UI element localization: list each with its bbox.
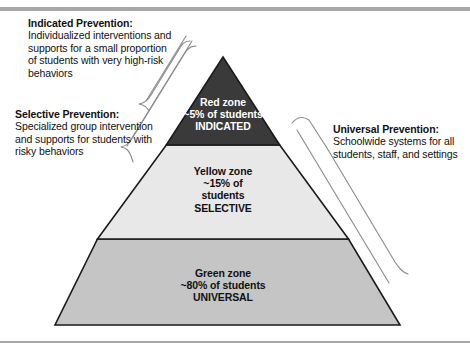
callout-universal-heading: Universal Prevention: <box>333 123 465 135</box>
yellow-zone-line-3: students <box>143 189 303 201</box>
callout-selective-body: Specialized group intervention and suppo… <box>15 120 165 157</box>
callout-indicated-body: Individualized interventions and support… <box>28 29 176 79</box>
red-zone-line-3: INDICATED <box>143 120 303 132</box>
red-zone-label: Red zone ~5% of students INDICATED <box>143 96 303 133</box>
red-zone-line-1: Red zone <box>143 96 303 108</box>
green-zone-label: Green zone ~80% of students UNIVERSAL <box>123 267 323 304</box>
callout-indicated: Indicated Prevention: Individualized int… <box>28 17 176 79</box>
callout-universal-body: Schoolwide systems for all students, sta… <box>333 135 465 160</box>
callout-selective-heading: Selective Prevention: <box>15 108 165 120</box>
callout-universal: Universal Prevention: Schoolwide systems… <box>333 123 465 160</box>
green-zone-line-1: Green zone <box>123 267 323 279</box>
yellow-zone-line-2: ~15% of <box>143 177 303 189</box>
yellow-zone-line-4: SELECTIVE <box>143 202 303 214</box>
callout-selective: Selective Prevention: Specialized group … <box>15 108 165 158</box>
callout-indicated-heading: Indicated Prevention: <box>28 17 176 29</box>
yellow-zone-line-1: Yellow zone <box>143 165 303 177</box>
red-zone-line-2: ~5% of students <box>143 108 303 120</box>
yellow-zone-label: Yellow zone ~15% of students SELECTIVE <box>143 165 303 214</box>
green-zone-line-3: UNIVERSAL <box>123 291 323 303</box>
green-zone-line-2: ~80% of students <box>123 279 323 291</box>
prevention-pyramid-figure: Red zone ~5% of students INDICATED Yello… <box>0 0 470 349</box>
